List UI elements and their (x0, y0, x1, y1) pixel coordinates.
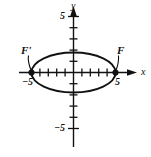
y-tick-label-neg5: −5 (54, 123, 65, 133)
y-axis-label: y (71, 1, 75, 11)
focus-right-label: F (117, 45, 124, 56)
x-axis (19, 69, 137, 75)
focus-right-leader-line (116, 56, 119, 71)
x-tick-label-pos5: 5 (115, 77, 120, 87)
focus-point-left (28, 69, 34, 75)
x-tick-label-neg5: −5 (22, 77, 33, 87)
focus-left-leader-line (28, 56, 31, 71)
focus-point-right (112, 69, 118, 75)
y-tick-label-pos5: 5 (60, 11, 65, 21)
focus-left-label: F' (21, 45, 31, 56)
ellipse-figure: y x F' F −5 5 5 −5 (0, 0, 151, 157)
x-axis-label: x (141, 67, 145, 77)
